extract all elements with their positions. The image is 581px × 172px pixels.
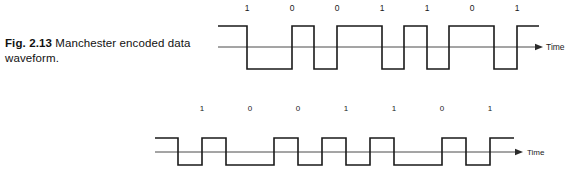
bit-label: 1 (200, 104, 205, 113)
bit-label: 0 (290, 3, 295, 13)
waveform-panel-top: 1001101 Time (0, 0, 581, 86)
time-axis-label-bottom: Time (527, 148, 545, 157)
bit-label: 1 (425, 3, 430, 13)
bit-labels-bottom: 1001101 (200, 104, 493, 113)
bit-label: 1 (245, 3, 250, 13)
bit-label: 1 (392, 104, 397, 113)
bit-label: 1 (488, 104, 493, 113)
figure-container: Fig. 2.13 Manchester encoded data wavefo… (0, 0, 581, 172)
bit-label: 1 (515, 3, 520, 13)
time-axis-label-top: Time (546, 42, 565, 52)
bit-label: 0 (470, 3, 475, 13)
bit-label: 0 (335, 3, 340, 13)
manchester-waveform-top-svg: 1001101 Time (0, 0, 581, 86)
bit-labels-top: 1001101 (245, 3, 520, 13)
bit-label: 0 (440, 104, 445, 113)
time-axis-bottom (155, 149, 523, 155)
manchester-waveform-bottom-svg: 1001101 Time (0, 86, 581, 172)
bit-label: 0 (296, 104, 301, 113)
bit-label: 0 (248, 104, 253, 113)
bit-label: 1 (380, 3, 385, 13)
bit-label: 1 (344, 104, 349, 113)
waveform-panel-bottom: 1001101 Time (0, 86, 581, 172)
time-axis-arrow-icon (535, 44, 543, 50)
time-axis-arrow-icon (515, 149, 523, 155)
